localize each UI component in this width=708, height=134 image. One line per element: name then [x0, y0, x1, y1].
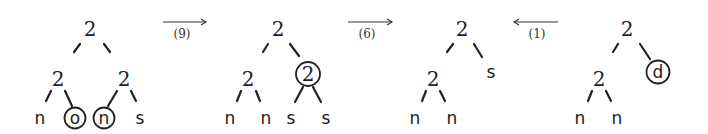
leaf-node: s [136, 108, 145, 128]
edge [74, 44, 80, 52]
leaf-node: s [487, 62, 496, 82]
edge [313, 87, 321, 102]
tree-node: 2 [427, 67, 440, 91]
tree-node: 2 [593, 67, 606, 91]
leaf-node: n [410, 108, 421, 128]
arrow-label: (1) [529, 27, 546, 41]
tree-1: 2 2 2 n o n s [35, 17, 145, 129]
tree-node: 2 [118, 67, 131, 91]
edge [108, 91, 117, 106]
leaf-node: n [35, 108, 46, 128]
tree-node: 2 [242, 67, 255, 91]
edge [263, 44, 268, 52]
leaf-node: n [261, 108, 272, 128]
tree-node: 2 [272, 17, 285, 41]
leaf-node-circled: o [70, 108, 80, 128]
leaf-node: s [287, 108, 296, 128]
arrow-left-1: (1) [514, 19, 558, 41]
leaf-node-circled: n [99, 108, 110, 128]
leaf-node: s [322, 108, 331, 128]
arrow-right-6: (6) [348, 19, 392, 41]
edge [440, 91, 445, 101]
edge [640, 44, 650, 59]
edge [65, 91, 72, 106]
edge [131, 91, 136, 101]
edge [46, 91, 51, 101]
leaf-node-circled: d [653, 62, 664, 82]
tree-node: 2 [84, 17, 97, 41]
tree-node-circled: 2 [302, 62, 315, 86]
arrow-label: (9) [174, 27, 191, 41]
edge [474, 44, 482, 57]
leaf-node: n [612, 108, 623, 128]
edge [295, 87, 303, 102]
edge [237, 91, 241, 101]
edge [588, 91, 592, 101]
edge [104, 44, 110, 52]
edge [606, 91, 611, 101]
tree-node: 2 [52, 67, 65, 91]
arrow-label: (6) [359, 27, 376, 41]
leaf-node: n [447, 108, 458, 128]
edge [290, 44, 299, 56]
tree-2: 2 2 2 n n s s [225, 17, 331, 128]
tree-node: 2 [456, 17, 469, 41]
tree-4: 2 2 d n n [575, 17, 670, 128]
arrow-right-9: (9) [163, 19, 206, 41]
tree-diagram: 2 2 2 n o n s (9) 2 2 2 n n s s (6) [0, 0, 708, 134]
edge [613, 44, 618, 52]
leaf-node: n [575, 108, 586, 128]
tree-node: 2 [621, 17, 634, 41]
edge [422, 91, 426, 101]
edge [447, 44, 453, 52]
tree-3: 2 2 s n n [410, 17, 496, 128]
leaf-node: n [225, 108, 236, 128]
edge [256, 91, 260, 101]
